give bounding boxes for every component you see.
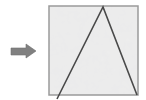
square-group [49,6,138,95]
right-arrow-icon [11,44,36,58]
arrow-polygon [11,44,36,58]
figure-svg [0,0,146,100]
figure-canvas [0,0,146,100]
square-texture-layer-2 [49,6,138,95]
